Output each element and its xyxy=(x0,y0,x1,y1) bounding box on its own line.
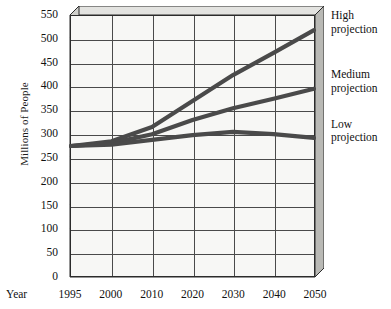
legend-item-medium-projection: Mediumprojection xyxy=(331,68,391,95)
legend-label-line1: Medium xyxy=(331,68,391,82)
plot-box-3d xyxy=(62,6,324,284)
legend-label-line1: Low xyxy=(331,118,391,132)
population-projection-chart: Millions of People 550500450400350300250… xyxy=(0,0,391,309)
chart-legend: HighprojectionMediumprojectionLowproject… xyxy=(331,0,391,309)
x-tick-2000: 2000 xyxy=(99,288,122,300)
series-line-low-projection xyxy=(71,132,314,146)
y-axis-tick-labels: 550500450400350300250200150100500 xyxy=(14,0,58,309)
y-tick-350: 350 xyxy=(14,104,58,116)
legend-label-line2: projection xyxy=(331,82,391,96)
y-tick-100: 100 xyxy=(14,223,58,235)
x-tick-2040: 2040 xyxy=(263,288,286,300)
y-tick-300: 300 xyxy=(14,128,58,140)
x-tick-2030: 2030 xyxy=(222,288,245,300)
legend-label-line1: High xyxy=(331,9,391,23)
x-tick-2020: 2020 xyxy=(181,288,204,300)
series-line-medium-projection xyxy=(71,89,314,146)
legend-label-line2: projection xyxy=(331,23,391,37)
y-tick-400: 400 xyxy=(14,80,58,92)
y-tick-450: 450 xyxy=(14,57,58,69)
series-lines xyxy=(71,16,314,276)
y-tick-50: 50 xyxy=(14,247,58,259)
y-tick-550: 550 xyxy=(14,9,58,21)
legend-item-low-projection: Lowprojection xyxy=(331,118,391,145)
legend-label-line2: projection xyxy=(331,131,391,145)
plot-area xyxy=(70,15,315,277)
x-tick-2050: 2050 xyxy=(304,288,327,300)
y-tick-500: 500 xyxy=(14,33,58,45)
y-tick-200: 200 xyxy=(14,176,58,188)
y-tick-150: 150 xyxy=(14,200,58,212)
legend-item-high-projection: Highprojection xyxy=(331,9,391,36)
x-tick-2010: 2010 xyxy=(140,288,163,300)
series-line-high-projection xyxy=(71,30,314,146)
x-tick-1995: 1995 xyxy=(59,288,82,300)
y-tick-250: 250 xyxy=(14,152,58,164)
y-tick-0: 0 xyxy=(14,271,58,283)
